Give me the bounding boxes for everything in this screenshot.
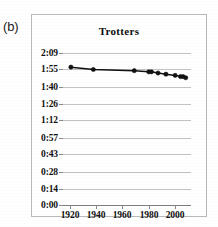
data-point-marker bbox=[149, 70, 153, 74]
panel-label: (b) bbox=[3, 19, 18, 34]
x-axis-tick bbox=[175, 205, 176, 209]
y-axis-tick bbox=[59, 205, 63, 206]
data-point-marker bbox=[184, 76, 188, 80]
data-point-marker bbox=[91, 67, 95, 71]
data-series-trotters bbox=[63, 53, 191, 205]
plot-area: 0:000:140:280:430:571:121:261:401:552:09… bbox=[63, 53, 191, 205]
series-line bbox=[71, 67, 186, 78]
y-axis-label: 1:26 bbox=[41, 99, 58, 109]
data-point-marker bbox=[164, 72, 168, 76]
y-axis-label: 1:12 bbox=[41, 115, 58, 125]
x-axis-label: 1980 bbox=[140, 210, 159, 220]
data-point-marker bbox=[132, 69, 136, 73]
x-axis-label: 2000 bbox=[166, 210, 185, 220]
x-axis-tick bbox=[149, 205, 150, 209]
y-axis-label: 0:00 bbox=[41, 200, 58, 210]
x-axis-tick bbox=[122, 205, 123, 209]
x-axis-label: 1940 bbox=[87, 210, 106, 220]
data-point-marker bbox=[69, 65, 73, 69]
data-point-marker bbox=[173, 73, 177, 77]
y-axis-label: 0:43 bbox=[41, 149, 58, 159]
y-axis-label: 1:40 bbox=[41, 82, 58, 92]
x-axis-tick bbox=[70, 205, 71, 209]
chart-title: Trotters bbox=[31, 25, 207, 37]
x-axis-label: 1920 bbox=[61, 210, 80, 220]
x-axis-label: 1960 bbox=[113, 210, 132, 220]
y-axis-label: 0:57 bbox=[41, 133, 58, 143]
x-axis-tick bbox=[96, 205, 97, 209]
data-point-marker bbox=[156, 71, 160, 75]
y-axis-label: 0:28 bbox=[41, 167, 58, 177]
y-axis-label: 0:14 bbox=[41, 184, 58, 194]
y-axis-label: 1:55 bbox=[41, 64, 58, 74]
y-axis-label: 2:09 bbox=[41, 48, 58, 58]
x-axis-line bbox=[63, 205, 191, 206]
